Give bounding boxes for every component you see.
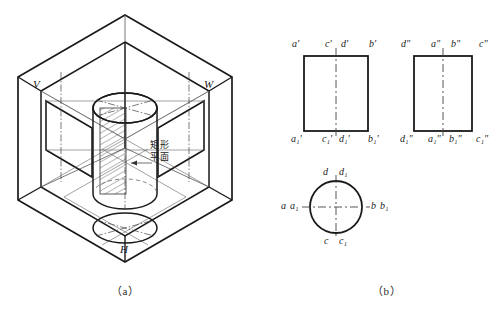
top-view-label-d1: d₁ <box>339 166 347 177</box>
front-view <box>304 48 368 139</box>
side-view-label-d1-dprime: d₁" <box>400 133 413 144</box>
caption-a: （a） <box>111 282 139 298</box>
top-view-label-d: d <box>323 166 328 177</box>
w-plane-projection-rect <box>158 101 204 177</box>
top-view <box>302 175 370 239</box>
plane-label-h: H <box>120 243 128 255</box>
front-view-label-d-prime: d' <box>341 38 348 49</box>
side-view <box>414 48 472 139</box>
top-view-label-b1: b₁ <box>380 200 388 211</box>
annotation-leader-arrow <box>131 161 137 166</box>
side-view-label-a-dprime: a" <box>431 38 440 49</box>
plane-label-w: W <box>204 78 213 90</box>
front-view-label-b-prime: b' <box>369 38 376 49</box>
caption-b: （b） <box>372 282 401 298</box>
top-view-label-c: c <box>324 235 328 246</box>
corner-connector-lower-right <box>209 187 232 200</box>
rect-plane-annotation-line1: 矩形 <box>150 140 169 151</box>
corner-connector-lower-left <box>18 187 41 200</box>
side-view-label-a1-dprime: a₁" <box>428 133 441 144</box>
rect-plane-annotation-line2: 平面 <box>150 152 169 163</box>
side-view-label-b-dprime: b" <box>451 38 460 49</box>
front-view-label-c-prime: c' <box>325 38 332 49</box>
plane-label-v: V <box>33 78 40 90</box>
front-view-label-c1-prime: c₁' <box>322 133 332 144</box>
h-plane-construction-3 <box>64 197 148 245</box>
side-view-label-c-dprime: c" <box>479 38 488 49</box>
top-view-label-a1: a₁ <box>290 200 298 211</box>
isometric-view <box>18 15 232 262</box>
front-view-label-b1-prime: b₁' <box>368 133 379 144</box>
side-view-label-d-dprime: d" <box>401 38 410 49</box>
v-plane-projection-rect <box>46 101 92 177</box>
front-view-label-a1-prime: a₁' <box>291 133 302 144</box>
front-view-label-d1-prime: d₁' <box>339 133 350 144</box>
top-view-label-a: a <box>281 200 286 211</box>
h-plane-construction-4 <box>102 197 186 245</box>
engineering-drawing-figure <box>0 0 500 314</box>
top-view-label-c1: c₁ <box>339 235 347 246</box>
top-view-label-b: b <box>371 200 376 211</box>
front-view-label-a-prime: a' <box>292 38 299 49</box>
side-view-label-b1-dprime: b₁" <box>449 133 462 144</box>
side-view-label-c1-dprime: c₁" <box>476 133 488 144</box>
